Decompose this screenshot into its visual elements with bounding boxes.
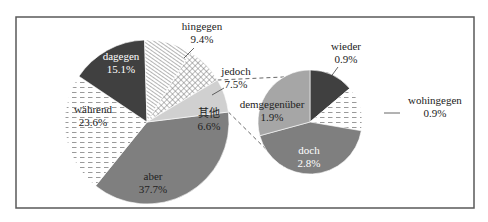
value-other: 6.6%	[198, 120, 221, 132]
value-waehrend: 23.6%	[79, 116, 107, 128]
value-wohingegen: 0.9%	[424, 107, 447, 119]
value-jedoch: 7.5%	[225, 78, 248, 90]
label-dagegen: dagegen	[103, 50, 140, 62]
label-other: 其他	[198, 107, 220, 119]
value-hingegen: 9.4%	[191, 33, 214, 45]
label-hingegen: hingegen	[182, 20, 223, 32]
label-wieder: wieder	[331, 40, 361, 52]
label-wohingegen: wohingegen	[408, 94, 462, 106]
value-wieder: 0.9%	[335, 53, 358, 65]
label-demgegenueber: demgegenüber	[240, 98, 305, 110]
value-demgegenueber: 1.9%	[261, 111, 284, 123]
value-dagegen: 15.1%	[107, 63, 135, 75]
value-aber: 37.7%	[139, 183, 167, 195]
label-waehrend: während	[74, 103, 112, 115]
label-doch: doch	[298, 144, 320, 156]
pie-of-pie-chart: aber37.7%während23.6%dagegen15.1%hingege…	[0, 0, 488, 222]
label-jedoch: jedoch	[220, 65, 251, 77]
value-doch: 2.8%	[298, 157, 321, 169]
label-aber: aber	[144, 170, 163, 182]
